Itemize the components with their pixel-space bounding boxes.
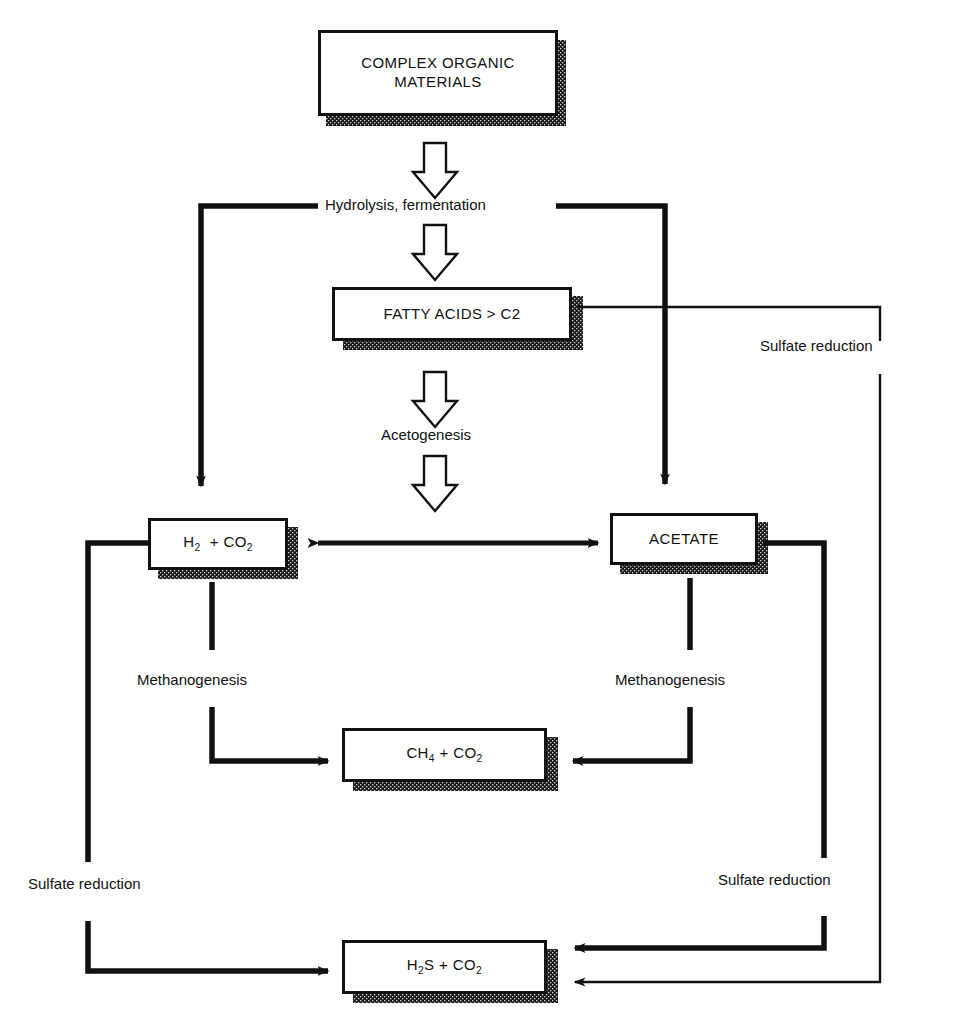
node-label-h2-co2: H2 + CO2: [183, 533, 253, 554]
label-sulfate-reduction-lower-right: Sulfate reduction: [718, 871, 831, 888]
node-label-h2s-co2: H2S + CO2: [407, 956, 482, 977]
edge-hydrolysis-to-h2co2: [201, 206, 318, 486]
node-label-line2: MATERIALS: [361, 73, 515, 92]
edge-h2co2-to-ch4-seg2: [212, 707, 328, 761]
label-hydrolysis-fermentation: Hydrolysis, fermentation: [325, 196, 486, 213]
label-sulfate-reduction-lower-left: Sulfate reduction: [28, 875, 141, 892]
node-label-line1: COMPLEX ORGANIC: [361, 54, 515, 73]
block-arrow-fattyacids-to-acetogenesis: [413, 372, 457, 427]
node-complex-organic-materials: COMPLEX ORGANIC MATERIALS: [318, 30, 558, 116]
edge-acetate-to-ch4-seg2: [573, 707, 690, 761]
edge-acetate-to-h2s-seg2: [575, 916, 824, 948]
node-h2-co2: H2 + CO2: [148, 518, 288, 570]
block-arrow-acetogenesis-to-midline: [413, 456, 457, 511]
node-fatty-acids: FATTY ACIDS > C2: [332, 287, 572, 341]
block-arrow-hydrolysis-to-fattyacids: [413, 225, 457, 280]
edge-h2co2-to-h2s-seg1: [88, 543, 150, 862]
label-methanogenesis-right: Methanogenesis: [615, 671, 725, 688]
node-acetate: ACETATE: [610, 513, 758, 565]
label-acetogenesis: Acetogenesis: [381, 426, 471, 443]
label-methanogenesis-left: Methanogenesis: [137, 671, 247, 688]
node-label-fatty-acids: FATTY ACIDS > C2: [383, 305, 520, 324]
edge-fattyacids-to-h2s-seg1: [578, 307, 880, 341]
block-arrow-organic-to-hydrolysis: [413, 143, 457, 198]
node-label-ch4-co2: CH4 + CO2: [406, 744, 482, 765]
edge-acetate-to-h2s-seg1: [763, 543, 824, 858]
node-label-acetate: ACETATE: [649, 530, 719, 549]
node-h2s-co2: H2S + CO2: [342, 940, 547, 994]
node-ch4-co2: CH4 + CO2: [342, 728, 547, 782]
label-sulfate-reduction-upper-right: Sulfate reduction: [760, 337, 873, 354]
diagram-canvas: COMPLEX ORGANIC MATERIALS FATTY ACIDS > …: [0, 0, 959, 1031]
edge-h2co2-to-h2s-seg2: [88, 921, 328, 971]
